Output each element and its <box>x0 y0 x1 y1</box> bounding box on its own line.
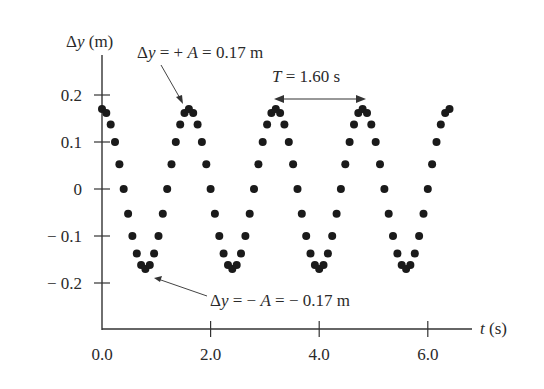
data-point <box>437 120 445 128</box>
arrowhead-icon <box>154 276 162 282</box>
data-point <box>189 109 197 117</box>
data-point <box>163 185 171 193</box>
data-point <box>346 138 354 146</box>
data-point <box>133 250 141 258</box>
data-point <box>159 210 167 218</box>
data-point <box>372 138 380 146</box>
data-point <box>254 160 262 168</box>
data-point <box>263 120 271 128</box>
data-point <box>367 120 375 128</box>
y-tick-label: 0.2 <box>61 86 82 105</box>
data-point <box>415 232 423 240</box>
data-point <box>198 138 206 146</box>
data-point <box>102 109 110 117</box>
data-point <box>215 232 223 240</box>
data-point <box>237 250 245 258</box>
data-point <box>420 210 428 218</box>
data-point <box>294 185 302 193</box>
data-point <box>207 185 215 193</box>
data-point <box>107 120 115 128</box>
data-point <box>259 138 267 146</box>
data-point <box>380 185 388 193</box>
x-tick-label: 2.0 <box>200 345 221 364</box>
data-point <box>146 261 154 269</box>
annotation-max: Δy = + A = 0.17 m <box>137 43 263 62</box>
data-point <box>393 250 401 258</box>
data-point <box>194 120 202 128</box>
oscillation-chart: 0.20.10− 0.1− 0.2 0.02.04.06.0 Δy (m) t … <box>0 0 544 389</box>
data-point <box>120 185 128 193</box>
data-point <box>333 210 341 218</box>
data-point <box>168 160 176 168</box>
data-point <box>446 105 454 113</box>
data-point <box>128 232 136 240</box>
data-point <box>406 261 414 269</box>
data-point <box>233 261 241 269</box>
annotation-min: Δy = − A = − 0.17 m <box>210 291 350 310</box>
data-point <box>202 160 210 168</box>
y-axis-label: Δy (m) <box>66 32 113 51</box>
data-point <box>411 250 419 258</box>
data-point <box>363 109 371 117</box>
y-ticks: 0.20.10− 0.1− 0.2 <box>47 86 110 293</box>
data-point <box>241 232 249 240</box>
arrowhead-icon <box>176 95 183 104</box>
data-point <box>211 210 219 218</box>
data-point <box>320 261 328 269</box>
data-point <box>376 160 384 168</box>
x-tick-label: 0.0 <box>91 345 112 364</box>
y-tick-label: − 0.1 <box>47 227 82 246</box>
data-point <box>155 232 163 240</box>
data-point <box>124 210 132 218</box>
data-point <box>428 160 436 168</box>
x-axis-label: t (s) <box>480 319 507 338</box>
data-point <box>424 185 432 193</box>
data-point <box>341 160 349 168</box>
data-point <box>289 160 297 168</box>
data-point <box>328 232 336 240</box>
data-point <box>220 250 228 258</box>
data-points <box>98 105 454 273</box>
data-point <box>250 185 258 193</box>
data-point <box>111 138 119 146</box>
period-label: T = 1.60 s <box>272 67 340 86</box>
y-tick-label: 0.1 <box>61 133 82 152</box>
data-point <box>150 250 158 258</box>
data-point <box>280 120 288 128</box>
data-point <box>176 120 184 128</box>
arrow-right-icon <box>356 95 366 103</box>
data-point <box>385 210 393 218</box>
x-tick-label: 4.0 <box>309 345 330 364</box>
data-point <box>115 160 123 168</box>
data-point <box>389 232 397 240</box>
data-point <box>276 109 284 117</box>
data-point <box>350 120 358 128</box>
x-tick-label: 6.0 <box>417 345 438 364</box>
data-point <box>302 232 310 240</box>
data-point <box>324 250 332 258</box>
y-tick-label: 0 <box>74 180 83 199</box>
arrow-left-icon <box>274 95 284 103</box>
y-tick-label: − 0.2 <box>47 274 82 293</box>
annotation-min-arrow <box>158 279 207 296</box>
data-point <box>246 210 254 218</box>
data-point <box>307 250 315 258</box>
data-point <box>172 138 180 146</box>
data-point <box>337 185 345 193</box>
data-point <box>433 138 441 146</box>
annotation-max-arrow <box>161 65 181 100</box>
data-point <box>298 210 306 218</box>
x-ticks: 0.02.04.06.0 <box>91 321 438 364</box>
data-point <box>285 138 293 146</box>
